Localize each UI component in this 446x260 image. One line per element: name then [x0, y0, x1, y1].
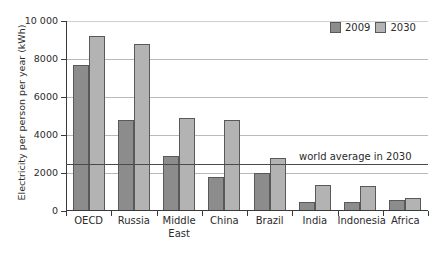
legend-swatch-icon [375, 22, 386, 33]
legend-label: 2009 [345, 22, 370, 33]
bar-group [111, 21, 156, 211]
bar-group [247, 21, 292, 211]
y-tick-label-10000: 10 000 [0, 15, 58, 26]
x-category-label: Middle East [157, 215, 202, 240]
legend-item: 2030 [375, 22, 415, 33]
legend-label: 2030 [390, 22, 415, 33]
bar [134, 44, 150, 211]
bar-group [383, 21, 428, 211]
page-scan-artifact [0, 0, 446, 7]
y-tick-label-6000: 6000 [0, 91, 58, 102]
bar-group [338, 21, 383, 211]
legend-item: 2009 [330, 22, 370, 33]
bar [270, 158, 286, 211]
y-tick-label-8000: 8000 [0, 53, 58, 64]
bar-group [66, 21, 111, 211]
x-category-label: Indonesia [338, 215, 383, 228]
x-category-label: Africa [383, 215, 428, 228]
bar-chart: Electricity per person per year (kWh) 10… [0, 0, 446, 260]
bar [118, 120, 134, 211]
x-category-label: OECD [66, 215, 111, 228]
x-category-label: Russia [111, 215, 156, 228]
legend: 20092030 [330, 22, 416, 33]
world-average-label: world average in 2030 [299, 151, 412, 162]
y-axis-title: Electricity per person per year (kWh) [16, 13, 27, 213]
y-tick-label-2000: 2000 [0, 167, 58, 178]
bar [89, 36, 105, 211]
bar-group [157, 21, 202, 211]
x-category-label: India [292, 215, 337, 228]
world-average-line [66, 164, 428, 166]
bar [315, 185, 331, 211]
x-category-label: Brazil [247, 215, 292, 228]
y-tick-label-4000: 4000 [0, 129, 58, 140]
x-category-label: China [202, 215, 247, 228]
bar-group [292, 21, 337, 211]
y-axis-line [66, 21, 67, 211]
plot-area [66, 21, 428, 211]
bar [73, 65, 89, 211]
bar [208, 177, 224, 211]
bar [360, 186, 376, 211]
legend-swatch-icon [330, 22, 341, 33]
bar [254, 173, 270, 211]
y-tick-label-0: 0 [0, 205, 58, 216]
bar-group [202, 21, 247, 211]
x-tick-mark [428, 211, 429, 216]
bar [224, 120, 240, 211]
